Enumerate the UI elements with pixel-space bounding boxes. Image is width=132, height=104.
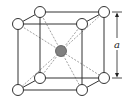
atom-back-bottom-left: [35, 73, 46, 84]
front-face-edges: [18, 24, 82, 90]
atom-back-top-right: [99, 7, 110, 18]
arrow-down-icon: [115, 73, 119, 78]
dimension-label: a: [114, 39, 120, 50]
center-atom: [56, 46, 67, 57]
atom-back-bottom-right: [99, 73, 110, 84]
arrow-up-icon: [115, 13, 119, 18]
back-face-edges: [40, 12, 104, 78]
atom-front-bottom-right: [77, 85, 88, 96]
bcc-unit-cell-diagram: a: [0, 0, 132, 104]
atom-front-top-right: [77, 19, 88, 30]
atom-front-top-left: [13, 19, 24, 30]
atom-front-bottom-left: [13, 85, 24, 96]
atom-back-top-left: [35, 7, 46, 18]
